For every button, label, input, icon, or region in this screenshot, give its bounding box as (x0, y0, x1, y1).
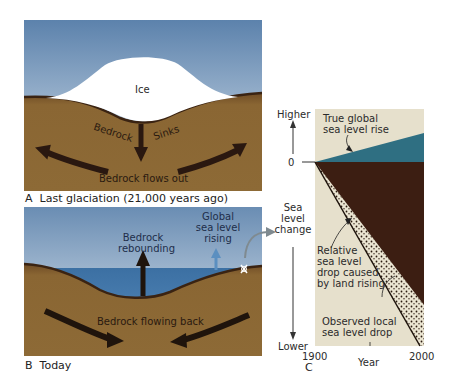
rebounding-label: Bedrock rebounding (118, 232, 168, 254)
axis-ylabel: Sea level change (271, 202, 315, 235)
panel-a-caption-text: Last glaciation (21,000 years ago) (40, 192, 228, 205)
axis-higher-label: Higher (277, 109, 310, 120)
true-rise-label: True global sea level rise (323, 113, 389, 135)
flowing-back-label: Bedrock flowing back (97, 316, 204, 327)
panel-b-caption-text: Today (40, 359, 72, 372)
x-axis-label: Year (358, 357, 379, 368)
panel-b-letter: B (25, 359, 33, 372)
axis-zero-label: 0 (288, 157, 294, 168)
global-rising-label: Global sea level rising (195, 211, 241, 244)
panel-c-letter: C (305, 362, 313, 374)
panel-a-letter: A (25, 192, 33, 205)
relative-drop-label: Relative sea level drop caused by land r… (317, 245, 385, 289)
location-marker-icon (241, 265, 247, 273)
flows-out-label: Bedrock flows out (99, 173, 188, 184)
panel-b-caption: B Today (25, 360, 71, 372)
x-end-label: 2000 (409, 351, 434, 362)
observed-drop-label: Observed local sea level drop (322, 316, 397, 338)
ice-label: Ice (135, 84, 150, 95)
panel-a-graphic (24, 20, 262, 191)
panel-a-caption: A Last glaciation (21,000 years ago) (25, 193, 228, 205)
